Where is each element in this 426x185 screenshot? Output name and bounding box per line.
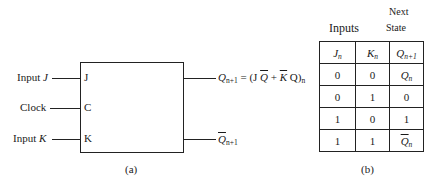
- pin-c: C: [84, 101, 91, 113]
- input-j-label: Input J: [17, 71, 48, 83]
- table-row: 1 1 Qn: [320, 130, 424, 152]
- input-k-label: Input K: [13, 132, 46, 144]
- table-row: 1 0 1: [320, 108, 424, 130]
- cell-j: 0: [320, 86, 356, 108]
- pin-j: J: [84, 71, 88, 83]
- cell-j: 0: [320, 64, 356, 86]
- col-qn1: Qn+1: [390, 42, 424, 64]
- caption-b: (b): [361, 163, 374, 175]
- caption-a: (a): [125, 163, 137, 175]
- state-header: State: [386, 22, 406, 33]
- q-bar-output-wire: [184, 139, 216, 140]
- q-next-equation: Qn+1 = (J Q + K Q)n: [218, 71, 305, 83]
- pin-k: K: [84, 132, 92, 144]
- cell-k: 0: [356, 108, 390, 130]
- table-header-row: Jn Kn Qn+1: [320, 42, 424, 64]
- clock-wire: [50, 108, 80, 109]
- clock-label: Clock: [20, 101, 46, 113]
- cell-q: 0: [390, 86, 424, 108]
- col-kn: Kn: [356, 42, 390, 64]
- input-j-wire: [52, 78, 80, 79]
- cell-k: 1: [356, 130, 390, 152]
- next-header: Next: [389, 6, 408, 17]
- table-row: 0 1 0: [320, 86, 424, 108]
- cell-q: 1: [390, 108, 424, 130]
- truth-table: Jn Kn Qn+1 0 0 Qn 0 1 0 1 0 1 1 1 Qn: [319, 41, 424, 152]
- cell-j: 1: [320, 130, 356, 152]
- cell-j: 1: [320, 108, 356, 130]
- inputs-header: Inputs: [329, 21, 359, 36]
- q-next-bar-label: Qn+1: [218, 133, 238, 145]
- input-k-wire: [52, 139, 80, 140]
- jk-flipflop-block: [80, 62, 184, 153]
- q-output-wire: [184, 78, 216, 79]
- cell-k: 1: [356, 86, 390, 108]
- col-jn: Jn: [320, 42, 356, 64]
- cell-k: 0: [356, 64, 390, 86]
- cell-q: Qn: [390, 130, 424, 152]
- cell-q: Qn: [390, 64, 424, 86]
- table-row: 0 0 Qn: [320, 64, 424, 86]
